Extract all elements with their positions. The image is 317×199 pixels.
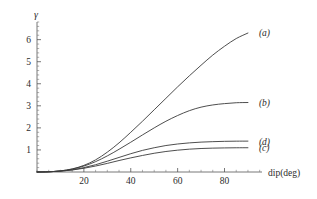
curve-labels: (a)(b)(d)(c) (259, 28, 270, 154)
x-tick-label: 60 (173, 176, 183, 186)
y-tick-label: 2 (26, 123, 31, 133)
y-axis-ticks (37, 22, 41, 172)
curve-d (37, 141, 248, 172)
x-axis-label: dip(deg) (268, 168, 300, 179)
curve-a (37, 33, 248, 172)
curve-b (37, 103, 248, 172)
line-chart: 20406080 123456 (a)(b)(d)(c) dip(deg) γ (0, 0, 317, 199)
x-tick-label: 20 (79, 176, 89, 186)
curve-label-c: (c) (259, 143, 270, 154)
x-tick-label: 80 (220, 176, 230, 186)
y-tick-label: 4 (26, 79, 31, 89)
x-tick-label: 40 (126, 176, 136, 186)
data-curves (37, 33, 248, 172)
x-axis-tick-labels: 20406080 (79, 176, 229, 186)
y-tick-label: 5 (26, 57, 31, 67)
y-tick-label: 3 (26, 101, 31, 111)
y-axis-label: γ (34, 9, 39, 20)
curve-c (37, 148, 248, 172)
curve-label-b: (b) (259, 98, 270, 109)
chart-figure: 20406080 123456 (a)(b)(d)(c) dip(deg) γ (0, 0, 317, 199)
y-axis-tick-labels: 123456 (26, 35, 31, 155)
y-tick-label: 6 (26, 35, 31, 45)
y-tick-label: 1 (26, 145, 31, 155)
curve-label-a: (a) (259, 28, 270, 39)
